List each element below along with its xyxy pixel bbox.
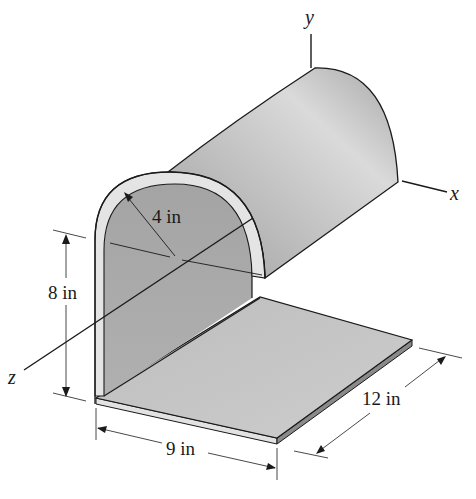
y-axis-label: y — [303, 6, 314, 29]
x-axis: x — [402, 181, 459, 204]
height-label: 8 in — [48, 282, 78, 303]
y-axis: y — [303, 6, 314, 68]
x-axis-label: x — [449, 182, 459, 204]
radius-label: 4 in — [152, 206, 182, 227]
z-axis-label: z — [7, 366, 16, 388]
isometric-part-diagram: y x z 4 in — [0, 0, 476, 499]
height-dimension: 8 in — [48, 230, 86, 401]
width-label: 9 in — [166, 438, 196, 459]
figure-canvas: y x z 4 in — [0, 0, 476, 499]
depth-label: 12 in — [362, 388, 401, 409]
